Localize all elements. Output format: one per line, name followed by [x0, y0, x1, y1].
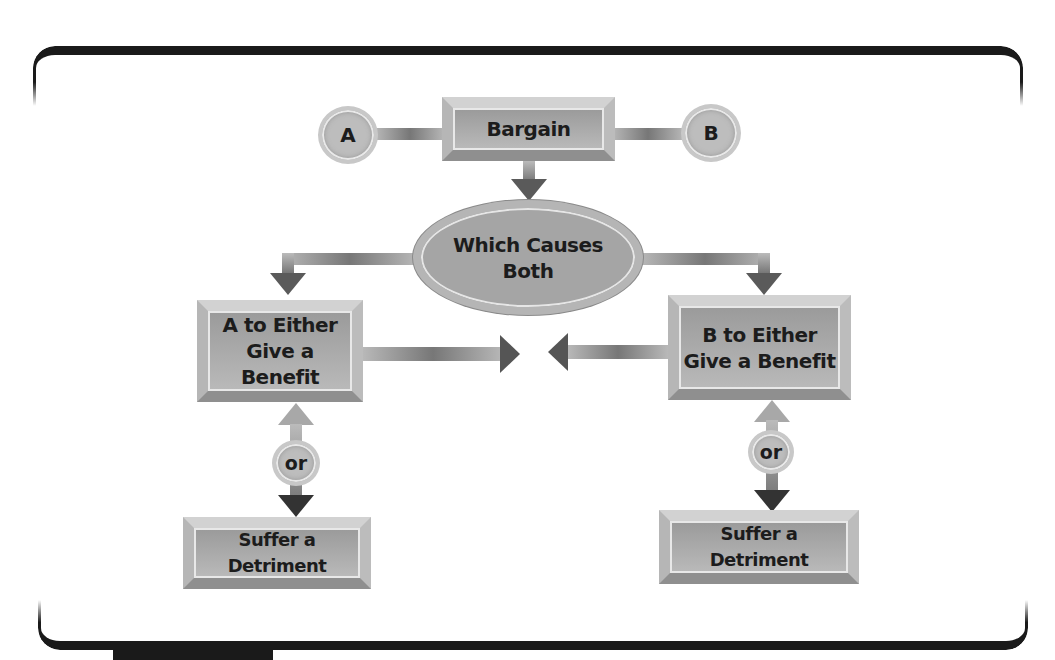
node-a-benefit: A to Either Give a Benefit: [197, 300, 363, 402]
a-benefit-line-1: A to Either: [223, 313, 338, 337]
b-benefit-line-1: B to Either: [702, 323, 817, 347]
arrow-right-icon: [500, 335, 520, 373]
arrow-down-icon: [511, 179, 547, 201]
node-party-a-label: A: [340, 123, 355, 147]
arrow-down-icon: [278, 495, 314, 517]
connector-right-drop: [758, 253, 770, 273]
connector-b-center: [568, 345, 668, 359]
node-party-b-label: B: [703, 121, 718, 145]
connector-a-center: [363, 347, 503, 361]
b-benefit-line-2: Give a Benefit: [683, 349, 835, 373]
arrow-left-icon: [548, 333, 568, 371]
node-which-causes-both-label: Which Causes Both: [453, 232, 603, 284]
frame-bottom-border: [38, 600, 1028, 650]
node-or-right: or: [748, 430, 794, 474]
arrow-down-icon: [754, 490, 790, 512]
node-b-benefit-label: B to Either Give a Benefit: [683, 322, 835, 374]
connector-left-drop: [282, 253, 294, 273]
connector-bargain-causes: [523, 161, 535, 181]
frame-tab: [113, 648, 273, 660]
causes-line-2: Both: [503, 259, 554, 283]
node-party-b: B: [681, 104, 741, 162]
node-party-a: A: [318, 106, 378, 164]
node-a-benefit-label: A to Either Give a Benefit: [208, 312, 352, 390]
node-b-detriment: Suffer a Detriment: [659, 510, 859, 584]
connector-b-bargain: [612, 128, 684, 140]
arrow-up-icon: [278, 403, 314, 425]
connector-causes-left: [282, 253, 417, 265]
arrow-up-icon: [754, 400, 790, 422]
node-which-causes-both: Which Causes Both: [413, 200, 643, 315]
arrow-down-icon: [270, 273, 306, 295]
node-a-detriment: Suffer a Detriment: [183, 517, 371, 589]
node-b-detriment-label: Suffer a Detriment: [670, 521, 848, 573]
causes-line-1: Which Causes: [453, 233, 603, 257]
node-bargain: Bargain: [442, 97, 615, 161]
node-or-right-label: or: [760, 441, 782, 463]
node-bargain-label: Bargain: [486, 116, 570, 142]
node-or-left-label: or: [285, 452, 307, 474]
node-or-left: or: [272, 440, 320, 486]
node-b-benefit: B to Either Give a Benefit: [668, 295, 851, 400]
node-a-detriment-label: Suffer a Detriment: [194, 527, 360, 579]
connector-causes-right: [640, 253, 770, 265]
a-benefit-line-2: Give a Benefit: [241, 339, 319, 389]
arrow-down-icon: [746, 273, 782, 295]
connector-a-bargain: [375, 128, 445, 140]
